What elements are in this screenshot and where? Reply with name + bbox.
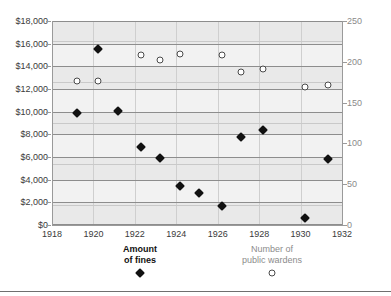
left-axis-tick-mark: [46, 134, 51, 135]
right-axis-tick-mark: [342, 62, 347, 63]
legend-fines-label-line2: of fines: [92, 255, 188, 266]
right-axis-tick-mark: [342, 225, 347, 226]
plot-band: [52, 134, 342, 157]
wardens-data-point: [301, 84, 308, 91]
x-axis-tick-label: 1918: [32, 229, 72, 240]
bottom-divider: [0, 291, 391, 292]
right-axis-line: [342, 21, 343, 225]
right-axis-tick-mark: [342, 184, 347, 185]
wardens-data-point: [177, 51, 184, 58]
x-axis-tick-label: 1928: [239, 229, 279, 240]
right-axis-tick-mark: [342, 103, 347, 104]
plot-band: [52, 89, 342, 112]
legend-wardens-label-line2: public wardens: [212, 255, 332, 266]
left-axis-tick-mark: [46, 21, 51, 22]
x-axis-line: [52, 225, 343, 226]
legend-wardens-label-line1: Number of: [212, 244, 332, 255]
legend-fines-label-line1: Amount: [92, 244, 188, 255]
gridline: [52, 89, 342, 90]
wardens-data-point: [138, 52, 145, 59]
left-axis-tick-label: $10,000: [2, 107, 48, 117]
left-axis-tick-label: $18,000: [2, 16, 48, 26]
legend-item-fines: Amount of fines: [92, 244, 188, 278]
wardens-data-point: [260, 66, 267, 73]
wardens-data-point: [324, 82, 331, 89]
left-axis-tick-mark: [46, 89, 51, 90]
left-axis-tick-label: $12,000: [2, 84, 48, 94]
left-axis-tick-mark: [46, 180, 51, 181]
gridline: [52, 202, 342, 203]
wardens-data-point: [94, 78, 101, 85]
x-axis-tick-label: 1926: [198, 229, 238, 240]
legend-fines-swatch: [92, 268, 188, 278]
wardens-data-point: [218, 52, 225, 59]
x-axis-tick-label: 1930: [281, 229, 321, 240]
gridline: [52, 21, 342, 22]
wardens-data-point: [73, 77, 80, 84]
left-axis-tick-mark: [46, 157, 51, 158]
left-axis-tick-label: $4,000: [2, 175, 48, 185]
x-axis-tick-label: 1932: [322, 229, 362, 240]
gridline: [52, 180, 342, 181]
chart-figure: $0$2,000$4,000$6,000$8,000$10,000$12,000…: [0, 0, 391, 296]
right-axis-tick-label: 150: [347, 98, 377, 108]
right-axis-tick-label: 50: [347, 179, 377, 189]
right-axis-tick-mark: [342, 143, 347, 144]
left-axis-tick-label: $8,000: [2, 129, 48, 139]
plot-area: [52, 21, 342, 225]
gridline-minor: [52, 164, 342, 165]
right-axis-tick-mark: [342, 21, 347, 22]
gridline: [52, 66, 342, 67]
gridline: [52, 157, 342, 158]
filled-diamond-icon: [135, 268, 145, 278]
wardens-data-point: [237, 68, 244, 75]
left-axis-tick-mark: [46, 66, 51, 67]
gridline: [52, 134, 342, 135]
x-axis-tick-label: 1924: [156, 229, 196, 240]
gridline-minor: [52, 205, 342, 206]
gridline-minor: [52, 123, 342, 124]
gridline-minor: [52, 41, 342, 42]
legend-item-wardens: Number of public wardens: [212, 244, 332, 278]
left-axis-tick-label: $14,000: [2, 61, 48, 71]
left-axis-tick-mark: [46, 202, 51, 203]
left-axis-tick-label: $6,000: [2, 152, 48, 162]
right-axis-tick-label: 100: [347, 138, 377, 148]
left-axis-tick-mark: [46, 225, 51, 226]
left-axis-tick-mark: [46, 44, 51, 45]
right-axis-tick-label: 200: [347, 57, 377, 67]
left-axis-tick-label: $16,000: [2, 39, 48, 49]
left-axis-tick-mark: [46, 112, 51, 113]
x-axis-tick-label: 1920: [73, 229, 113, 240]
left-axis-line: [52, 21, 53, 225]
gridline: [52, 44, 342, 45]
chart-legend: Amount of fines Number of public wardens: [0, 244, 391, 290]
x-axis-tick-label: 1922: [115, 229, 155, 240]
wardens-data-point: [156, 57, 163, 64]
legend-wardens-swatch: [212, 268, 332, 278]
gridline: [52, 112, 342, 113]
left-axis-tick-label: $2,000: [2, 197, 48, 207]
open-circle-icon: [269, 270, 276, 277]
right-axis-tick-label: 250: [347, 16, 377, 26]
